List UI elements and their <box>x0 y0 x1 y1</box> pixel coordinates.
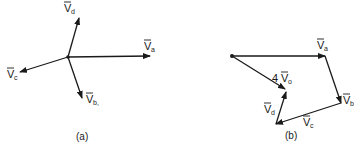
vector-arrow-v_a <box>68 56 150 57</box>
phasor-diagram-canvas: VaVb,VcVd VaVbVcVd4Vo (a) (b) <box>0 0 363 152</box>
subscript: d <box>71 8 75 15</box>
subscript: b <box>350 100 354 107</box>
coefficient: 4 <box>272 72 278 84</box>
subscript: b, <box>93 99 99 106</box>
diagram_a-label-v_d: Vd <box>64 2 75 15</box>
vector-arrow-v_d <box>276 92 286 124</box>
caption-a: (a) <box>76 131 88 142</box>
subscript: c <box>14 74 18 81</box>
diagram_a-label-v_c: Vc <box>7 68 18 81</box>
caption-b: (b) <box>285 130 297 141</box>
diagram-a-star: VaVb,VcVd <box>7 2 155 106</box>
diagram_b-label-v_b: Vb <box>343 94 354 107</box>
diagram_b-label-v_a: Va <box>317 39 328 52</box>
origin-dot <box>66 55 70 59</box>
start-dot <box>230 54 234 58</box>
vector-arrow-v_d <box>68 18 79 57</box>
subscript: a <box>324 45 328 52</box>
diagram_b-label-v_c: Vc <box>303 116 314 129</box>
diagram_a-label-v_a: Va <box>144 40 155 53</box>
subscript: c <box>310 122 314 129</box>
subscript: d <box>271 109 275 116</box>
vector-arrow-v_c <box>20 57 68 72</box>
diagram_b-label-v_d: Vd <box>264 103 275 116</box>
vector-arrow-v_b <box>325 56 341 103</box>
subscript: a <box>151 46 155 53</box>
vector-arrow-v_b <box>68 57 82 98</box>
diagram-b-polygon: VaVbVcVd4Vo <box>230 39 354 129</box>
diagram_a-label-v_b: Vb, <box>86 93 99 106</box>
diagram_b-label-4v_o: 4Vo <box>272 72 292 85</box>
subscript: o <box>288 78 292 85</box>
